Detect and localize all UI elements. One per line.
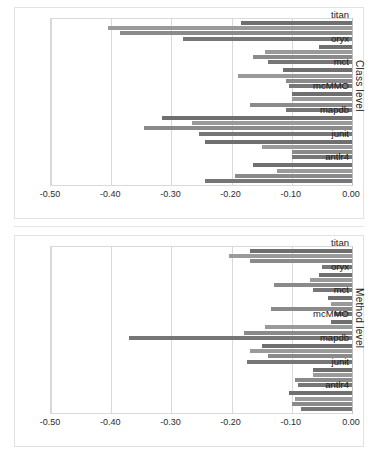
- bar: [253, 163, 352, 167]
- bar: [205, 140, 352, 144]
- axis-title-class: Class level: [354, 60, 365, 112]
- x-tick-label: -0.20: [220, 189, 241, 199]
- x-tick-label: 0.00: [342, 189, 360, 199]
- bar-group: mct: [51, 66, 352, 90]
- category-label: antlr4: [325, 152, 349, 162]
- bar-group: mcMMO: [51, 90, 352, 114]
- bar: [250, 349, 352, 353]
- x-tick-label: -0.10: [281, 189, 302, 199]
- bar-group: junit: [51, 138, 352, 162]
- bar: [319, 273, 352, 277]
- bar: [328, 296, 352, 300]
- bar: [238, 74, 352, 78]
- bar: [199, 132, 353, 136]
- gridline: [352, 247, 353, 413]
- bar: [331, 302, 352, 306]
- bar-group: antlr4: [51, 389, 352, 413]
- bar: [129, 336, 352, 340]
- x-tick-label: -0.30: [160, 417, 181, 427]
- x-tick-label: -0.10: [281, 417, 302, 427]
- bar: [310, 278, 352, 282]
- bar: [265, 50, 352, 54]
- bar: [250, 249, 352, 253]
- x-axis-ticks-method: -0.50-0.40-0.30-0.20-0.100.00: [50, 417, 353, 431]
- x-tick-label: -0.50: [40, 189, 61, 199]
- x-axis-ticks-class: -0.50-0.40-0.30-0.20-0.100.00: [50, 189, 353, 203]
- bar: [295, 397, 352, 401]
- bar: [162, 116, 352, 120]
- chart-frame: titanoryxmctmcMMOmapdbjunitantlr4 -0.50-…: [14, 7, 364, 219]
- bar-group: mapdb: [51, 114, 352, 138]
- bar: [241, 21, 352, 25]
- bar: [262, 344, 352, 348]
- bar-group: titan: [51, 19, 352, 43]
- bar-group: mcMMO: [51, 318, 352, 342]
- bar: [292, 97, 352, 101]
- category-label: titan: [331, 10, 349, 20]
- bar: [301, 407, 352, 411]
- category-label: mcMMO: [313, 81, 349, 91]
- bar: [144, 126, 352, 130]
- bar: [120, 31, 352, 35]
- category-label: mct: [334, 285, 349, 295]
- bar: [183, 37, 352, 41]
- bar: [319, 45, 352, 49]
- chart-class-level: titanoryxmctmcMMOmapdbjunitantlr4 -0.50-…: [0, 3, 388, 225]
- bar: [313, 373, 352, 377]
- category-label: mct: [334, 57, 349, 67]
- category-label: mapdb: [320, 105, 349, 115]
- charts-page: titanoryxmctmcMMOmapdbjunitantlr4 -0.50-…: [0, 0, 388, 455]
- x-tick-label: 0.00: [342, 417, 360, 427]
- bar-group: titan: [51, 247, 352, 271]
- category-label: oryx: [331, 34, 349, 44]
- x-tick-label: -0.40: [100, 189, 121, 199]
- bar: [277, 169, 352, 173]
- bar: [265, 325, 352, 329]
- bar-group: mapdb: [51, 342, 352, 366]
- bar: [262, 145, 352, 149]
- bar: [313, 368, 352, 372]
- chart-method-level: titanoryxmctmcMMOmapdbjunitantlr4 -0.50-…: [0, 231, 388, 453]
- plot-area-class: titanoryxmctmcMMOmapdbjunitantlr4: [50, 18, 353, 186]
- category-label: mcMMO: [313, 309, 349, 319]
- category-label: mapdb: [320, 333, 349, 343]
- category-label: antlr4: [325, 380, 349, 390]
- category-label: oryx: [331, 262, 349, 272]
- chart-divider: [14, 226, 364, 227]
- category-label: junit: [332, 129, 349, 139]
- category-label: junit: [332, 357, 349, 367]
- x-tick-label: -0.50: [40, 417, 61, 427]
- chart-frame: titanoryxmctmcMMOmapdbjunitantlr4 -0.50-…: [14, 235, 364, 447]
- bar: [229, 254, 352, 258]
- bar: [205, 179, 352, 183]
- bar: [235, 174, 352, 178]
- bar: [283, 68, 352, 72]
- bar-group: antlr4: [51, 161, 352, 185]
- bar-group: mct: [51, 294, 352, 318]
- bar-group: oryx: [51, 43, 352, 67]
- category-label: titan: [331, 238, 349, 248]
- bar-group: oryx: [51, 271, 352, 295]
- x-tick-label: -0.30: [160, 189, 181, 199]
- bar: [292, 92, 352, 96]
- bar: [289, 391, 352, 395]
- gridline: [352, 19, 353, 185]
- bar: [292, 402, 352, 406]
- bar: [192, 121, 352, 125]
- bar: [108, 26, 352, 30]
- bar: [331, 320, 352, 324]
- plot-area-method: titanoryxmctmcMMOmapdbjunitantlr4: [50, 246, 353, 414]
- axis-title-method: Method level: [354, 288, 365, 348]
- bar-group: junit: [51, 366, 352, 390]
- x-tick-label: -0.40: [100, 417, 121, 427]
- x-tick-label: -0.20: [220, 417, 241, 427]
